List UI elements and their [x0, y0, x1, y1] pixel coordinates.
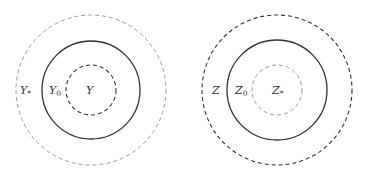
label-y: Y: [86, 84, 95, 97]
left-diagram: Y* Y0 Y: [16, 15, 166, 165]
label-y-zero: Y0: [49, 84, 61, 98]
label-z-zero: Z0: [234, 84, 248, 98]
label-z-star: Z*: [271, 84, 284, 98]
label-z: Z: [211, 84, 220, 97]
nested-circles-diagram: Y* Y0 Y Z Z0 Z*: [0, 0, 367, 178]
label-y-star: Y*: [20, 84, 31, 98]
right-diagram: Z Z0 Z*: [202, 15, 352, 165]
